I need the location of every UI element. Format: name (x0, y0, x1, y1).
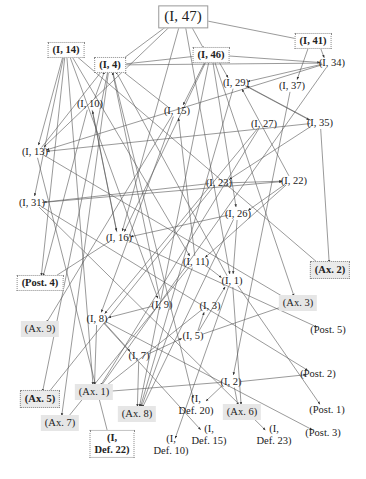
node-post3: (Post. 3) (303, 426, 343, 440)
edge-i47-to-i13 (44, 21, 176, 147)
edge-i14-to-post4 (41, 56, 65, 276)
node-i14: (I, 14) (48, 42, 85, 58)
node-ax6: (Ax. 6) (223, 404, 261, 420)
node-i37: (I, 37) (277, 79, 307, 93)
edge-i34-to-i4 (122, 63, 322, 65)
node-i2: (I, 2) (219, 375, 244, 389)
node-i34: (I, 34) (317, 56, 347, 70)
node-i11: (I, 11) (181, 255, 211, 269)
node-i46: (I, 46) (193, 47, 230, 63)
node-i4: (I, 4) (94, 57, 126, 73)
node-i47: (I, 47) (158, 5, 208, 28)
edge-i14-to-i31 (35, 56, 64, 196)
node-i23: (I, 23) (204, 176, 234, 190)
node-i22: (I, 22) (279, 174, 309, 188)
edge-i10-to-post4 (43, 110, 87, 276)
edge-i35-to-ax2 (321, 129, 330, 263)
node-ax8: (Ax. 8) (118, 406, 156, 422)
node-i7: (I, 7) (127, 349, 152, 363)
node-ax5: (Ax. 5) (20, 390, 60, 408)
node-ax2: (Ax. 2) (310, 261, 350, 279)
dependency-diagram: (I, 47)(I, 14)(I, 4)(I, 46)(I, 41)(I, 34… (0, 0, 366, 479)
node-ax3: (Ax. 3) (279, 295, 317, 311)
edge-i37-to-i2 (233, 92, 290, 375)
edge-i14-to-i13 (39, 56, 64, 145)
edge-i15-to-i4 (120, 69, 169, 108)
edge-i47-to-i41 (193, 18, 301, 40)
node-def20: (I,Def. 20) (177, 392, 216, 418)
edge-i14-to-i11 (71, 55, 190, 256)
node-i26: (I, 26) (223, 207, 253, 221)
node-i35: (I, 35) (305, 116, 335, 130)
edge-i46-to-i15 (183, 60, 206, 105)
node-i3: (I, 3) (198, 299, 223, 313)
edge-i10-to-i16 (92, 110, 116, 231)
edge-i2-to-ax1 (106, 382, 221, 391)
edge-i47-to-i16 (122, 23, 180, 231)
edge-i46-to-i4 (122, 56, 201, 65)
node-i8: (I, 8) (85, 312, 110, 326)
node-def15: (I,Def. 15) (190, 422, 229, 448)
edge-i16-to-post4 (50, 241, 110, 279)
node-ax9: (Ax. 9) (21, 321, 59, 337)
edge-i35-to-i23 (229, 126, 311, 179)
node-def10: (I,Def. 10) (152, 432, 191, 458)
node-ax7: (Ax. 7) (41, 415, 79, 431)
edge-i23-to-i31 (44, 184, 209, 203)
node-i27: (I, 27) (249, 117, 279, 131)
node-i29: (I, 29) (221, 76, 251, 90)
edge-i31-to-post2 (41, 206, 308, 370)
node-def22: (I,Def. 22) (90, 430, 135, 458)
node-def23: (I,Def. 23) (255, 422, 294, 448)
edge-i31-to-i22 (42, 182, 282, 203)
node-i41: (I, 41) (295, 33, 332, 49)
node-i1: (I, 1) (220, 274, 245, 288)
edge-i7-to-ax8 (137, 362, 138, 407)
node-ax1: (Ax. 1) (75, 384, 113, 400)
node-i15: (I, 15) (162, 104, 192, 118)
edge-i46-to-i16 (124, 60, 206, 231)
node-i13: (I, 13) (20, 145, 50, 159)
node-i5: (I, 5) (181, 329, 206, 343)
edge-i7-to-i5 (148, 339, 181, 354)
edge-i34-to-ax1 (101, 68, 326, 386)
edge-i4-to-ax5 (43, 71, 108, 392)
node-post1: (Post. 1) (307, 403, 347, 417)
edge-i1-to-i4 (116, 71, 227, 275)
edge-i26-to-i16 (131, 215, 228, 236)
edge-i2-to-post2 (241, 375, 306, 382)
node-post4: (Post. 4) (17, 275, 64, 291)
node-post5: (Post. 5) (308, 323, 348, 337)
node-post2: (Post. 2) (298, 367, 338, 381)
node-i31: (I, 31) (17, 196, 47, 210)
node-i16: (I, 16) (104, 231, 134, 245)
edge-i8-to-i7 (105, 323, 131, 351)
node-i10: (I, 10) (75, 97, 105, 111)
node-i9: (I, 9) (150, 298, 175, 312)
edge-i26-to-i1 (233, 220, 237, 274)
